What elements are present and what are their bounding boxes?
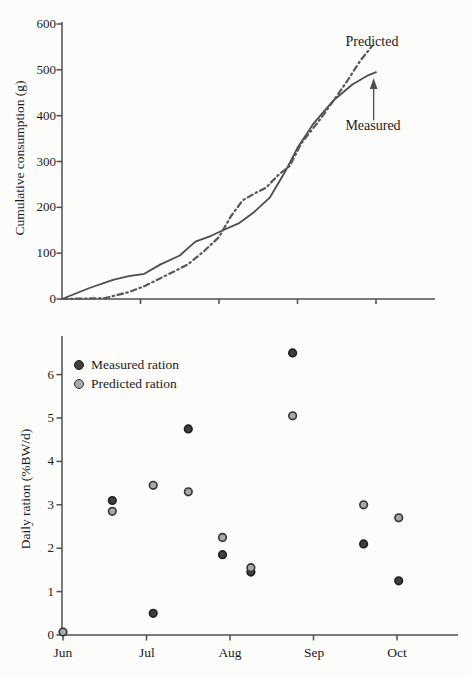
bottom-ytick-0: 0 [20, 627, 54, 643]
bottom-ytick-4: 4 [20, 453, 54, 469]
predicted-ration-point [289, 412, 297, 420]
measured-ration-point [219, 551, 227, 559]
xtick-oct: Oct [377, 645, 417, 661]
bottom-ytick-1: 1 [20, 584, 54, 600]
bottom-y-axis-label: Daily ration (%BW/d) [18, 429, 34, 550]
measured-ration-point [395, 577, 403, 585]
xtick-sep: Sep [294, 645, 334, 661]
top-ytick-500: 500 [22, 62, 56, 78]
legend-label-measured: Measured ration [91, 357, 179, 373]
xtick-jul: Jul [127, 645, 167, 661]
top-ytick-400: 400 [22, 108, 56, 124]
predicted-line [62, 46, 372, 299]
predicted-ration-point [149, 482, 157, 490]
predicted-ration-point [219, 534, 227, 542]
top-ytick-100: 100 [22, 245, 56, 261]
scatter-legend: Measured ration Predicted ration [74, 355, 179, 393]
predicted-ration-point [185, 488, 193, 496]
measured-ration-point [289, 349, 297, 357]
legend-label-predicted: Predicted ration [91, 376, 177, 392]
top-ytick-200: 200 [22, 199, 56, 215]
bottom-ytick-2: 2 [20, 540, 54, 556]
bottom-ytick-3: 3 [20, 497, 54, 513]
xtick-jun: Jun [43, 645, 83, 661]
predicted-ration-point [395, 514, 403, 522]
top-panel-graphics [57, 22, 436, 304]
measured-ration-marker-icon [74, 360, 84, 370]
xtick-aug: Aug [210, 645, 250, 661]
bottom-ytick-5: 5 [20, 410, 54, 426]
top-ytick-0: 0 [22, 291, 56, 307]
top-ytick-600: 600 [22, 16, 56, 32]
top-ytick-300: 300 [22, 154, 56, 170]
measured-line-annotation: Measured [323, 118, 423, 134]
measured-line [62, 72, 376, 299]
legend-item-predicted-ration: Predicted ration [74, 374, 179, 393]
predicted-ration-marker-icon [74, 379, 84, 389]
measured-ration-point [109, 497, 117, 505]
predicted-ration-point [109, 508, 117, 516]
predicted-ration-point [59, 628, 67, 636]
predicted-line-annotation: Predicted [322, 34, 422, 50]
predicted-ration-point [360, 501, 368, 509]
two-panel-figure: Cumulative consumption (g) 0 100 200 300… [0, 0, 471, 678]
bottom-ytick-6: 6 [20, 367, 54, 383]
measured-ration-point [185, 425, 193, 433]
measured-ration-point [360, 540, 368, 548]
predicted-ration-point [247, 564, 255, 572]
figure-canvas [0, 0, 471, 678]
legend-item-measured-ration: Measured ration [74, 355, 179, 374]
arrowhead-icon [370, 78, 378, 89]
measured-ration-point [149, 610, 157, 618]
